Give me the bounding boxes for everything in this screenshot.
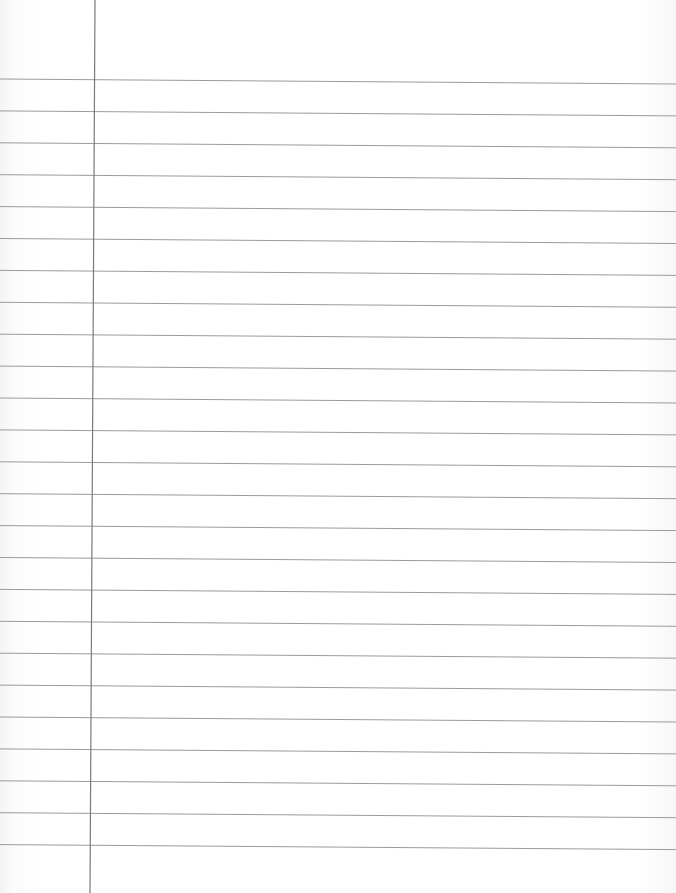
ruled-line xyxy=(0,749,676,754)
ruled-line xyxy=(0,653,676,658)
ruled-line xyxy=(0,813,676,818)
ruled-line xyxy=(0,239,676,244)
ruled-line xyxy=(0,207,676,212)
ruled-line xyxy=(0,621,676,626)
ruled-line xyxy=(0,430,676,435)
margin-line xyxy=(90,0,95,893)
ruled-line xyxy=(0,398,676,403)
ruled-line xyxy=(0,334,676,339)
ruled-line xyxy=(0,558,676,563)
ruled-line xyxy=(0,366,676,371)
ruled-line xyxy=(0,462,676,467)
ruled-line xyxy=(0,589,676,594)
ruled-line xyxy=(0,845,676,850)
ruled-line xyxy=(0,175,676,180)
ruled-line xyxy=(0,143,676,148)
ruled-lines xyxy=(0,0,676,893)
ruled-line xyxy=(0,302,676,307)
lined-paper-sheet xyxy=(0,0,676,893)
ruled-line xyxy=(0,685,676,690)
ruled-line xyxy=(0,494,676,499)
ruled-line xyxy=(0,270,676,275)
ruled-line xyxy=(0,111,676,116)
ruled-line xyxy=(0,781,676,786)
ruled-line xyxy=(0,79,676,84)
ruled-line xyxy=(0,717,676,722)
ruled-line xyxy=(0,526,676,531)
